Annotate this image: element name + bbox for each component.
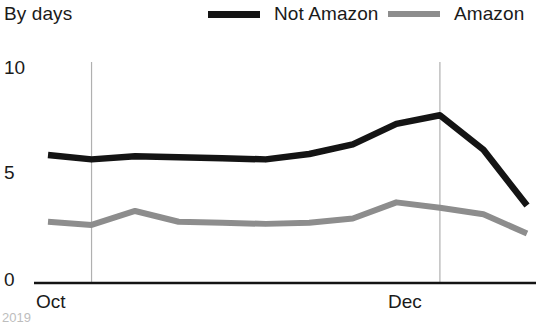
x-axis-tick-oct: Oct <box>36 292 66 312</box>
footnote-year: 2019 <box>2 311 31 325</box>
x-axis-tick-dec: Dec <box>388 292 422 312</box>
series-line-not-amazon <box>48 115 527 205</box>
y-axis-tick-0: 0 <box>4 270 15 290</box>
gridlines <box>92 62 440 283</box>
chart-container: By days Not Amazon Amazon 10 5 0 <box>0 0 540 325</box>
y-axis-tick-5: 5 <box>4 163 15 183</box>
y-axis-tick-10: 10 <box>4 58 25 78</box>
plot-area: 10 5 0 Oct Dec <box>0 0 540 325</box>
line-chart-svg <box>0 0 540 325</box>
series-line-amazon <box>48 202 527 233</box>
